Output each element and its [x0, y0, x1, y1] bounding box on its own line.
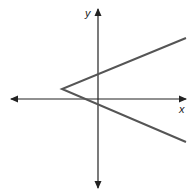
x-axis-label: x: [178, 103, 185, 115]
y-axis-label: y: [84, 7, 92, 19]
coordinate-graph: y x: [0, 0, 191, 189]
v-graph-curve: [62, 38, 186, 142]
